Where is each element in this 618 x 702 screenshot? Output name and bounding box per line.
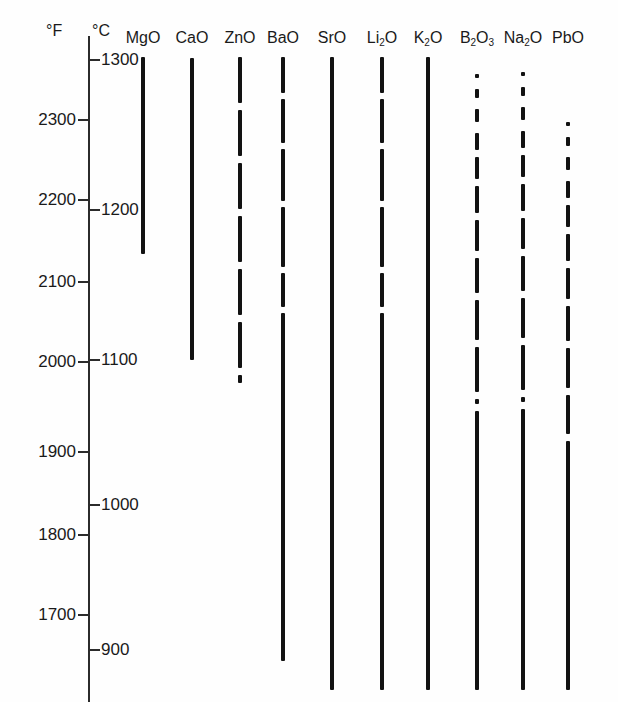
bar-segment bbox=[566, 122, 570, 126]
bar-bao bbox=[281, 57, 285, 661]
bar-segment bbox=[380, 149, 384, 201]
bar-segment bbox=[380, 57, 384, 93]
series-label-na2o: Na2O bbox=[504, 30, 542, 46]
bar-sro bbox=[330, 57, 334, 690]
bar-segment bbox=[521, 345, 525, 390]
bar-segment bbox=[566, 395, 570, 434]
bar-segment bbox=[330, 57, 334, 690]
bar-cao bbox=[190, 58, 194, 360]
bar-segment bbox=[566, 306, 570, 342]
tick-mark-fahrenheit bbox=[78, 199, 89, 201]
bar-segment bbox=[521, 72, 525, 76]
bar-segment bbox=[566, 268, 570, 299]
bar-segment bbox=[475, 258, 479, 294]
bar-mgo bbox=[141, 57, 145, 254]
oxide-melting-range-chart: °F °C 2300220021002000190018001700 13001… bbox=[0, 0, 618, 702]
bar-zno bbox=[238, 57, 242, 383]
bar-segment bbox=[238, 375, 242, 383]
bar-segment bbox=[475, 89, 479, 98]
bar-li2o bbox=[380, 57, 384, 690]
series-label-bao: BaO bbox=[267, 30, 299, 46]
bar-segment bbox=[141, 57, 145, 254]
bar-segment bbox=[566, 137, 570, 146]
bar-segment bbox=[475, 347, 479, 392]
bar-segment bbox=[238, 322, 242, 368]
bar-segment bbox=[238, 269, 242, 315]
bar-segment bbox=[281, 99, 285, 143]
bar-segment bbox=[475, 157, 479, 179]
tick-mark-celsius bbox=[89, 59, 100, 61]
tick-mark-fahrenheit bbox=[78, 361, 89, 363]
axis-unit-celsius: °C bbox=[92, 22, 110, 40]
bar-segment bbox=[238, 216, 242, 262]
series-label-sro: SrO bbox=[318, 30, 346, 46]
tick-label-fahrenheit: 1800 bbox=[4, 526, 76, 543]
bar-segment bbox=[281, 313, 285, 661]
bar-segment bbox=[475, 74, 479, 78]
tick-mark-fahrenheit bbox=[78, 534, 89, 536]
tick-mark-celsius bbox=[89, 649, 100, 651]
axis-spine bbox=[88, 36, 90, 702]
tick-mark-celsius bbox=[89, 359, 100, 361]
bar-na2o bbox=[521, 72, 525, 690]
tick-label-celsius: 1100 bbox=[101, 351, 138, 368]
bar-segment bbox=[521, 87, 525, 96]
bar-segment bbox=[566, 205, 570, 227]
bar-segment bbox=[521, 184, 525, 211]
bar-segment bbox=[380, 273, 384, 307]
tick-label-celsius: 900 bbox=[101, 641, 129, 658]
bar-segment bbox=[475, 186, 479, 213]
tick-label-celsius: 1000 bbox=[101, 496, 139, 513]
bar-segment bbox=[426, 57, 430, 690]
bar-segment bbox=[566, 157, 570, 170]
series-label-b2o3: B2O3 bbox=[460, 30, 494, 46]
tick-label-fahrenheit: 2000 bbox=[4, 353, 76, 370]
bar-k2o bbox=[426, 57, 430, 690]
bar-segment bbox=[475, 411, 479, 690]
bar-segment bbox=[521, 218, 525, 249]
bar-b2o3 bbox=[475, 74, 479, 690]
bar-segment bbox=[566, 441, 570, 690]
tick-mark-fahrenheit bbox=[78, 451, 89, 453]
bar-segment bbox=[521, 155, 525, 177]
bar-segment bbox=[380, 207, 384, 267]
bar-segment bbox=[281, 207, 285, 267]
series-label-zno: ZnO bbox=[224, 30, 255, 46]
tick-label-fahrenheit: 1700 bbox=[4, 606, 76, 623]
bar-segment bbox=[566, 348, 570, 388]
bar-segment bbox=[475, 133, 479, 151]
tick-label-celsius: 1300 bbox=[101, 51, 139, 68]
tick-label-fahrenheit: 2100 bbox=[4, 273, 76, 290]
bar-segment bbox=[281, 57, 285, 93]
bar-segment bbox=[238, 57, 242, 103]
axis-unit-fahrenheit: °F bbox=[46, 22, 62, 40]
bar-segment bbox=[521, 298, 525, 338]
bar-segment bbox=[521, 397, 525, 403]
bar-segment bbox=[566, 181, 570, 199]
bar-segment bbox=[475, 109, 479, 122]
series-label-li2o: Li2O bbox=[367, 30, 397, 46]
tick-mark-celsius bbox=[89, 504, 100, 506]
series-label-pbo: PbO bbox=[552, 30, 584, 46]
bar-segment bbox=[475, 300, 479, 340]
tick-mark-fahrenheit bbox=[78, 614, 89, 616]
bar-segment bbox=[380, 99, 384, 143]
bar-segment bbox=[238, 110, 242, 156]
bar-segment bbox=[521, 107, 525, 120]
bar-segment bbox=[190, 58, 194, 360]
bar-segment bbox=[281, 149, 285, 201]
tick-mark-fahrenheit bbox=[78, 281, 89, 283]
bar-segment bbox=[475, 220, 479, 251]
tick-label-fahrenheit: 1900 bbox=[4, 443, 76, 460]
bar-pbo bbox=[566, 122, 570, 690]
tick-label-fahrenheit: 2200 bbox=[4, 191, 76, 208]
tick-label-fahrenheit: 2300 bbox=[4, 111, 76, 128]
tick-mark-fahrenheit bbox=[78, 119, 89, 121]
bar-segment bbox=[521, 256, 525, 292]
series-label-cao: CaO bbox=[176, 30, 209, 46]
bar-segment bbox=[521, 131, 525, 149]
bar-segment bbox=[238, 163, 242, 209]
series-label-k2o: K2O bbox=[414, 30, 443, 46]
series-label-mgo: MgO bbox=[126, 30, 161, 46]
bar-segment bbox=[566, 234, 570, 261]
